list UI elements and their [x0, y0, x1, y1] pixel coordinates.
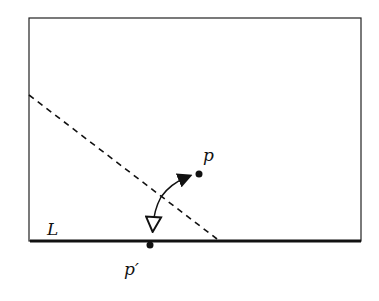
dashed-reflection-line — [29, 95, 217, 239]
point-p — [196, 171, 203, 178]
point-p-prime — [147, 242, 154, 249]
arrow-to-p-prime-icon — [153, 197, 161, 226]
label-p: p — [203, 145, 214, 165]
label-L: L — [46, 219, 58, 239]
label-p-prime: p′ — [124, 259, 139, 279]
bounding-frame — [29, 18, 361, 241]
arrow-to-p-icon — [161, 177, 187, 197]
diagram-canvas: L p p′ — [0, 0, 379, 301]
